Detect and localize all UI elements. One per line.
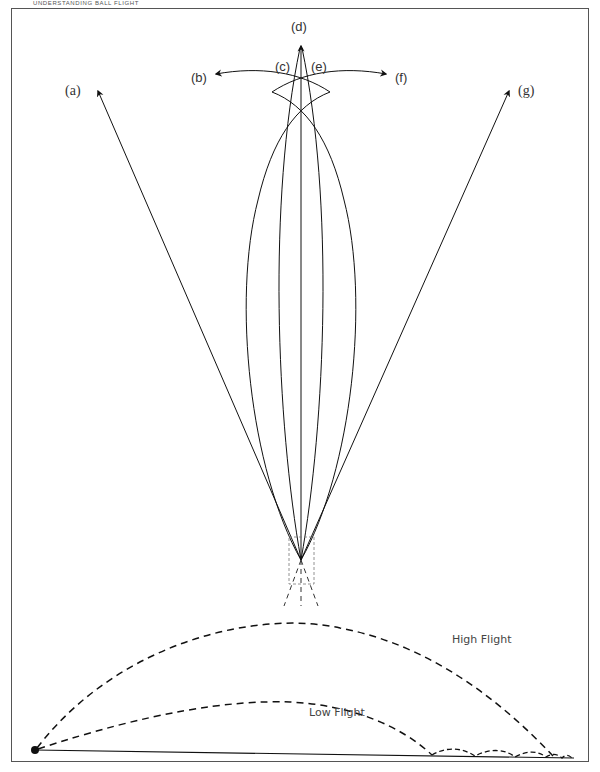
path-c: [279, 48, 301, 560]
path-a: [98, 91, 301, 560]
low-flight-trajectory: [38, 702, 572, 758]
path-e: [301, 48, 323, 560]
high-flight-label: High Flight: [452, 633, 512, 646]
label-g: (g): [518, 83, 535, 99]
label-a: (a): [65, 83, 81, 99]
ball-flight-diagram: (a) (b) (c) (d) (e) (f) (g) High Flight …: [0, 0, 600, 772]
path-b: [216, 71, 330, 560]
label-c: (c): [275, 59, 290, 74]
label-d: (d): [291, 19, 307, 34]
label-b: (b): [191, 70, 207, 85]
low-flight-label: Low Flight: [309, 706, 366, 719]
path-f: [272, 71, 386, 560]
label-e: (e): [311, 59, 327, 74]
label-f: (f): [395, 70, 407, 85]
